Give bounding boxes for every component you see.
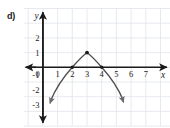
graph-svg: 2 1 -1 -2 -3 0 1 2 3 4 5 6 7 y x — [24, 6, 170, 128]
x-tick-label-5: 5 — [114, 69, 118, 79]
y-axis-label: y — [33, 11, 39, 21]
x-tick-label-1: 1 — [55, 69, 59, 79]
x-tick-label-2: 2 — [70, 69, 74, 79]
x-tick-label-4: 4 — [100, 69, 105, 79]
figure-container: d) — [0, 0, 170, 128]
x-tick-label-3: 3 — [85, 69, 89, 79]
origin-label: 0 — [36, 69, 40, 79]
y-tick-label-neg3: -3 — [32, 100, 39, 110]
y-tick-label-neg2: -2 — [32, 85, 39, 95]
x-tick-label-7: 7 — [144, 69, 148, 79]
x-axis-label: x — [160, 70, 166, 80]
y-tick-label-2: 2 — [35, 33, 39, 43]
coordinate-graph: 2 1 -1 -2 -3 0 1 2 3 4 5 6 7 y x — [24, 6, 170, 128]
vertex-point — [85, 51, 89, 55]
part-label: d) — [7, 11, 15, 22]
y-tick-label-1: 1 — [35, 48, 39, 58]
x-tick-label-6: 6 — [129, 69, 133, 79]
